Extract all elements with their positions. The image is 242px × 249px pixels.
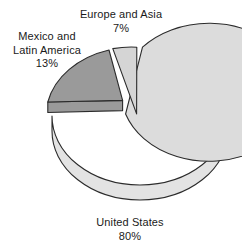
slice-label-mexico-latin-america-name-line1: Mexico and <box>0 30 94 44</box>
slice-label-mexico-latin-america-name-line2: Latin America <box>0 44 94 58</box>
slice-label-europe-and-asia-name: Europe and Asia <box>62 8 180 22</box>
pie-chart-figure: Europe and Asia 7% Mexico and Latin Amer… <box>0 0 242 249</box>
slice-top-united-states <box>126 23 242 161</box>
slice-label-united-states-name: United States <box>71 216 189 230</box>
slice-label-united-states: United States 80% <box>71 216 189 243</box>
slice-label-united-states-percent: 80% <box>71 230 189 244</box>
slice-label-mexico-latin-america-percent: 13% <box>0 57 94 71</box>
slice-label-mexico-latin-america: Mexico and Latin America 13% <box>0 30 94 71</box>
